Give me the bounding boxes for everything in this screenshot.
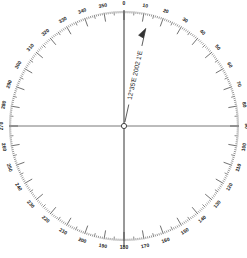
degree-tick — [225, 175, 227, 176]
degree-tick — [177, 24, 178, 26]
degree-tick — [232, 94, 234, 95]
degree-tick — [214, 194, 216, 195]
degree-label: 130 — [212, 199, 222, 209]
degree-label: 160 — [161, 236, 171, 245]
degree-tick — [56, 217, 57, 219]
degree-tick — [87, 233, 88, 235]
degree-label: 300 — [13, 59, 22, 69]
degree-tick — [229, 85, 231, 86]
degree-tick — [193, 35, 194, 37]
degree-tick — [206, 48, 208, 50]
degree-tick — [11, 144, 20, 146]
degree-tick — [198, 211, 199, 213]
degree-tick — [29, 62, 31, 63]
degree-tick — [229, 166, 231, 167]
degree-tick — [49, 211, 50, 213]
degree-tick — [233, 153, 235, 154]
degree-tick — [88, 233, 89, 235]
degree-tick — [75, 22, 77, 26]
degree-tick — [18, 81, 20, 82]
degree-tick — [192, 207, 198, 214]
degree-label: 320 — [40, 27, 50, 37]
degree-tick — [166, 231, 167, 233]
degree-tick — [55, 34, 56, 36]
degree-tick — [50, 38, 56, 45]
degree-tick — [192, 34, 193, 36]
degree-tick — [60, 31, 61, 33]
degree-tick — [92, 15, 93, 17]
degree-tick — [231, 163, 233, 164]
degree-tick — [171, 227, 173, 231]
degree-tick — [12, 153, 14, 154]
degree-tick — [26, 65, 28, 66]
degree-tick — [205, 52, 212, 58]
degree-tick — [221, 184, 223, 185]
degree-tick — [177, 218, 182, 226]
degree-tick — [224, 72, 226, 73]
degree-tick — [216, 179, 224, 184]
degree-tick — [232, 92, 234, 93]
degree-tick — [185, 30, 186, 32]
degree-tick — [184, 222, 185, 224]
degree-tick — [72, 24, 73, 26]
degree-tick — [44, 207, 46, 209]
degree-tick — [46, 42, 48, 44]
degree-label: 240 — [14, 182, 23, 192]
degree-tick — [193, 215, 194, 217]
degree-label: 10 — [142, 2, 149, 9]
degree-tick — [175, 24, 176, 26]
degree-tick — [67, 218, 72, 226]
degree-tick — [201, 208, 203, 210]
degree-tick — [202, 204, 205, 207]
degree-label: 90 — [244, 123, 247, 129]
degree-tick — [218, 189, 220, 190]
degree-tick — [213, 195, 215, 196]
degree-tick — [24, 69, 32, 74]
magnetic-variation-arrow: 12°35'E 2002 1'E — [125, 28, 146, 122]
degree-tick — [225, 177, 227, 178]
degree-tick — [157, 16, 158, 18]
degree-label: 290 — [4, 79, 13, 89]
degree-tick — [225, 77, 229, 79]
degree-tick — [168, 230, 169, 232]
degree-tick — [223, 70, 225, 71]
degree-tick — [31, 58, 33, 59]
degree-label: 0 — [123, 0, 126, 6]
degree-tick — [90, 234, 91, 236]
degree-tick — [219, 187, 221, 188]
degree-tick — [25, 67, 27, 68]
degree-tick — [177, 26, 182, 34]
degree-tick — [214, 57, 216, 58]
degree-tick — [220, 186, 222, 187]
degree-tick — [228, 81, 230, 82]
degree-label: 310 — [25, 42, 35, 52]
degree-tick — [192, 38, 198, 45]
degree-tick — [220, 65, 222, 66]
degree-tick — [187, 31, 188, 33]
degree-label: 330 — [58, 15, 68, 24]
degree-tick — [30, 60, 33, 62]
degree-tick — [11, 106, 20, 108]
degree-tick — [206, 203, 208, 205]
degree-tick — [14, 159, 16, 160]
degree-tick — [151, 235, 152, 237]
degree-tick — [15, 161, 17, 162]
degree-tick — [142, 13, 144, 22]
degree-tick — [225, 76, 227, 77]
degree-tick — [153, 233, 154, 237]
degree-tick — [208, 201, 210, 202]
degree-tick — [43, 204, 46, 207]
degree-tick — [228, 144, 237, 146]
degree-tick — [46, 208, 48, 210]
degree-tick — [215, 58, 217, 59]
degree-tick — [22, 72, 24, 73]
degree-tick — [29, 189, 31, 190]
degree-label: 70 — [236, 80, 244, 87]
degree-tick — [35, 197, 37, 198]
degree-tick — [20, 77, 24, 79]
degree-tick — [170, 21, 171, 23]
degree-tick — [65, 27, 66, 29]
degree-tick — [56, 33, 57, 35]
degree-label: 190 — [98, 242, 107, 249]
degree-tick — [161, 17, 162, 19]
